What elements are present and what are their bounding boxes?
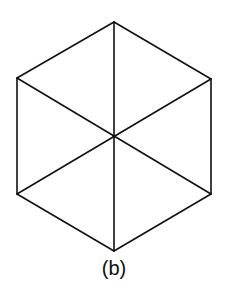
- edge-bottom-lower-left: [17, 194, 114, 251]
- edge-top-upper-right: [114, 22, 211, 79]
- center-point: [112, 134, 115, 137]
- figure-caption: (b): [0, 254, 225, 282]
- edge-upper-left-top: [17, 22, 114, 78]
- hexagon-diagram: [0, 0, 225, 294]
- edge-lower-right-bottom: [114, 194, 211, 251]
